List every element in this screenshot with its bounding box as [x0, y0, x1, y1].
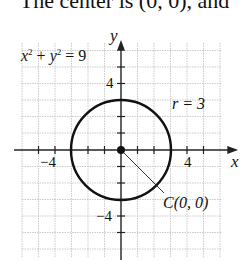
x-axis-label: x [231, 153, 239, 170]
center-label: C(0, 0) [163, 195, 208, 211]
y-tick-label-neg4: −4 [96, 209, 112, 224]
center-point [117, 146, 125, 154]
x-tick-label-neg4: −4 [40, 155, 56, 170]
radius-pointer [121, 150, 164, 193]
y-axis-label: y [110, 27, 118, 44]
equation-label: x2 + y2 = 9 [21, 48, 86, 64]
x-tick-label-4: 4 [184, 155, 192, 170]
radius-label: r = 3 [172, 96, 205, 112]
axes [14, 42, 236, 260]
y-tick-label-4: 4 [106, 76, 114, 91]
circle-graph [0, 0, 249, 260]
